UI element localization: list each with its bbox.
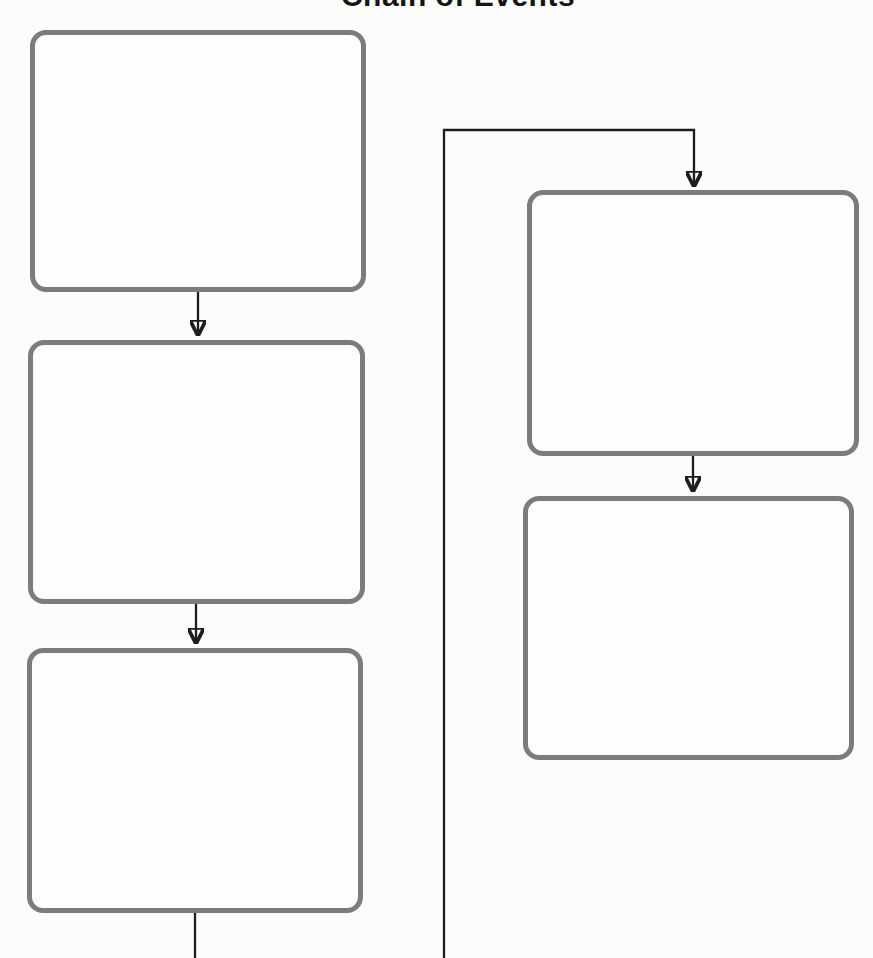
event-box-3-label xyxy=(32,653,358,673)
event-box-4-label xyxy=(532,195,854,215)
event-box-5-label xyxy=(528,501,849,521)
event-box-5 xyxy=(523,496,854,760)
event-box-2-label xyxy=(33,345,360,365)
event-box-1 xyxy=(30,30,366,292)
event-box-4 xyxy=(527,190,859,456)
event-box-2 xyxy=(28,340,365,604)
event-box-1-label xyxy=(35,35,361,55)
event-box-3 xyxy=(27,648,363,913)
worksheet-canvas: Chain of Events xyxy=(0,0,873,958)
